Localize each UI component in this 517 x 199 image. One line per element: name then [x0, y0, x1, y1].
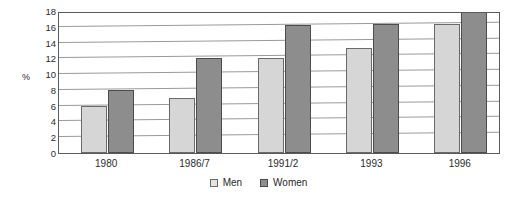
bar-men-1991-2: [258, 58, 284, 153]
bar-men-1993: [346, 48, 372, 153]
y-axis-tick-label: 4: [32, 117, 56, 127]
legend-entry-men: Men: [210, 177, 242, 188]
legend-entry-women: Women: [260, 177, 307, 188]
y-axis-tick-label: 12: [32, 54, 56, 64]
bar-women-1986-7: [196, 58, 222, 153]
y-axis-label: %: [8, 72, 30, 82]
bar-women-1991-2: [285, 25, 311, 153]
bar-men-1980: [81, 106, 107, 153]
bar-women-1996: [461, 12, 487, 153]
legend-label: Men: [223, 177, 242, 188]
y-axis-tick-label: 6: [32, 102, 56, 112]
bar-women-1993: [373, 24, 399, 153]
x-axis-tick-label: 1996: [425, 158, 495, 169]
y-axis-tick-label: 0: [32, 149, 56, 159]
y-axis-tick-label: 18: [32, 7, 56, 17]
plot-area: [58, 12, 500, 154]
legend-swatch-men-icon: [210, 179, 218, 187]
y-axis-tick-label: 16: [32, 23, 56, 33]
chart-legend: MenWomen: [0, 177, 517, 188]
y-axis-tick-label: 2: [32, 133, 56, 143]
legend-label: Women: [273, 177, 307, 188]
y-axis-tick-label: 10: [32, 70, 56, 80]
x-axis-tick-label: 1993: [336, 158, 406, 169]
bar-men-1986-7: [169, 98, 195, 153]
bar-women-1980: [108, 90, 134, 153]
bar-chart-figure: % 024681012141618 19801986/71991/2199319…: [0, 0, 517, 199]
x-axis-tick-label: 1980: [71, 158, 141, 169]
x-axis-tick-label: 1991/2: [248, 158, 318, 169]
x-axis-tick-label: 1986/7: [160, 158, 230, 169]
y-axis-tick-label: 8: [32, 86, 56, 96]
legend-swatch-women-icon: [260, 179, 268, 187]
y-axis-tick-labels: 024681012141618: [30, 0, 56, 199]
bar-men-1996: [434, 24, 460, 153]
x-axis-tick-labels: 19801986/71991/219931996: [58, 158, 500, 174]
y-axis-tick-label: 14: [32, 39, 56, 49]
bar-series-container: [59, 13, 499, 153]
